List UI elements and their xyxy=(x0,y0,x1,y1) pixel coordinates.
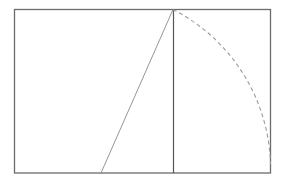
golden-rectangle-diagram xyxy=(0,0,281,184)
outer-rectangle xyxy=(15,10,271,174)
diagonal-line xyxy=(101,10,173,174)
dashed-arc xyxy=(173,10,271,165)
